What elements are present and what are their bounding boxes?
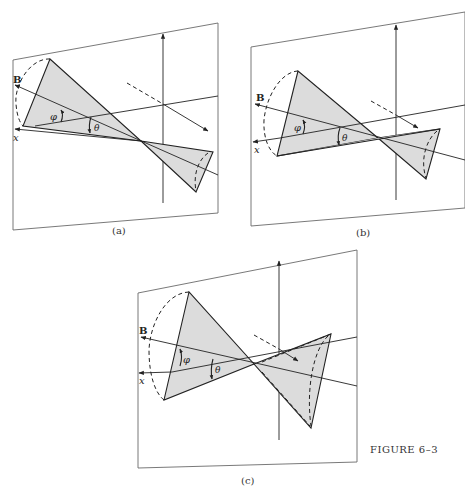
b-field-axis [15, 85, 218, 175]
plane-frame [251, 12, 465, 226]
x-axis [139, 372, 172, 373]
b-label: B [13, 74, 21, 85]
panel-label: (b) [356, 227, 370, 238]
panel-label: (c) [241, 475, 255, 486]
x-label: x [13, 132, 19, 143]
direction-dashed [127, 83, 163, 104]
phi-label: φ [50, 111, 57, 122]
figure-6-3: φ θ B x (a) φ θ B x (b) [0, 0, 465, 492]
theta-label: θ [94, 123, 100, 133]
direction-dashed [254, 335, 279, 349]
b-label: B [256, 92, 264, 103]
b-label: B [139, 325, 147, 336]
figure-caption: FIGURE 6–3 [370, 444, 438, 455]
direction-arrow [396, 115, 418, 128]
cone-left [164, 292, 254, 400]
panel-label: (a) [112, 225, 126, 236]
phi-label: φ [294, 122, 301, 133]
panel-a: φ θ B x (a) [13, 23, 218, 236]
direction-arrow [163, 104, 208, 131]
x-label: x [139, 375, 145, 386]
theta-label: θ [215, 365, 221, 375]
direction-dashed [371, 101, 396, 115]
panel-c: φ θ B x (c) [138, 250, 357, 486]
theta-label: θ [342, 133, 348, 143]
panel-b: φ θ B x (b) [251, 12, 465, 238]
cone-right [141, 141, 213, 192]
x-label: x [254, 144, 260, 155]
cone-right [378, 129, 440, 179]
cone-left [23, 59, 141, 141]
phi-label: φ [183, 354, 190, 365]
